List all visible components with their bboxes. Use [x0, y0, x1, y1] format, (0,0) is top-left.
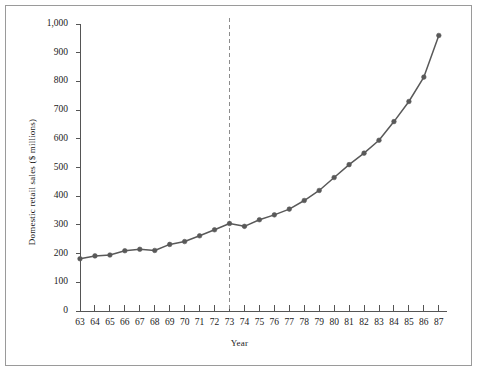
y-tick-label: 800	[28, 75, 68, 85]
data-point-marker	[302, 198, 307, 203]
data-point-marker	[152, 248, 157, 253]
data-point-marker	[257, 217, 262, 222]
data-point-marker	[377, 138, 382, 143]
y-tick-label: 600	[28, 133, 68, 143]
data-point-marker	[422, 75, 427, 80]
x-axis-label: Year	[0, 338, 479, 348]
y-tick-label: 0	[28, 305, 68, 315]
data-point-marker	[138, 247, 143, 252]
data-point-marker	[287, 207, 292, 212]
data-point-marker	[392, 119, 397, 124]
data-point-marker	[227, 221, 232, 226]
data-point-marker	[182, 239, 187, 244]
data-series-line	[80, 35, 439, 258]
data-point-marker	[347, 162, 352, 167]
data-point-marker	[93, 254, 98, 259]
y-tick-label: 700	[28, 104, 68, 114]
y-tick-label: 900	[28, 47, 68, 57]
y-tick-label: 500	[28, 162, 68, 172]
data-point-marker	[78, 256, 83, 261]
data-point-marker	[123, 248, 128, 253]
data-point-marker	[242, 224, 247, 229]
data-point-marker	[437, 33, 442, 38]
x-tick-label: 87	[429, 317, 449, 327]
data-point-marker	[362, 151, 367, 156]
data-point-marker	[407, 99, 412, 104]
chart-figure: Domestic retail sales ($ millions) Year …	[0, 0, 479, 375]
y-tick-label: 400	[28, 190, 68, 200]
data-point-marker	[272, 213, 277, 218]
data-point-marker	[108, 253, 113, 258]
data-point-marker	[167, 242, 172, 247]
y-tick-label: 100	[28, 276, 68, 286]
data-point-marker	[212, 227, 217, 232]
y-tick-label: 200	[28, 248, 68, 258]
data-point-marker	[332, 175, 337, 180]
y-tick-label: 1,000	[28, 18, 68, 28]
y-tick-label: 300	[28, 219, 68, 229]
y-axis-label: Domestic retail sales ($ millions)	[27, 92, 37, 272]
data-point-marker	[317, 188, 322, 193]
data-point-marker	[197, 234, 202, 239]
